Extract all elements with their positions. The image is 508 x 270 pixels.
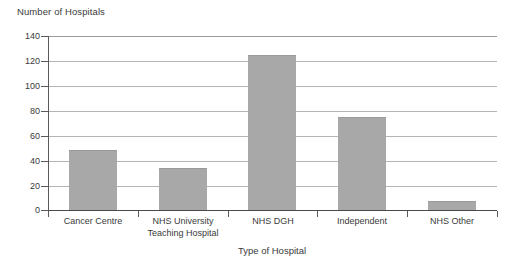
x-axis-title: Type of Hospital — [0, 245, 508, 256]
x-tick-label-cancer-centre: Cancer Centre — [48, 216, 138, 228]
y-axis-tick — [41, 61, 48, 62]
y-tick-label: 0 — [14, 206, 40, 215]
bar-slot — [138, 36, 228, 210]
bar-series — [48, 36, 497, 210]
x-tick-label-nhs-other: NHS Other — [407, 216, 497, 228]
bar-independent — [338, 117, 386, 210]
y-axis-tick — [41, 210, 48, 211]
y-tick-label: 140 — [14, 32, 40, 41]
y-axis-tick — [41, 136, 48, 137]
x-tick-label-independent: Independent — [317, 216, 407, 228]
y-axis-tick — [41, 36, 48, 37]
y-axis-tick-labels: 140 120 100 80 60 40 20 0 — [8, 0, 40, 270]
x-tick-label-line: NHS University — [138, 216, 228, 228]
bar-nhs-university-teaching-hospital — [159, 168, 207, 210]
x-axis-title-text: Type of Hospital — [238, 245, 306, 256]
bar-slot — [48, 36, 138, 210]
x-tick-label-line: NHS Other — [407, 216, 497, 228]
bar-cancer-centre — [69, 150, 117, 210]
bar-nhs-dgh — [248, 55, 296, 210]
x-tick-label-line: Cancer Centre — [48, 216, 138, 228]
x-tick-label-nhs-dgh: NHS DGH — [228, 216, 318, 228]
bar-slot — [317, 36, 407, 210]
x-tick-label-line: NHS DGH — [228, 216, 318, 228]
y-axis-tick — [41, 86, 48, 87]
y-axis-tick — [41, 161, 48, 162]
y-tick-label: 60 — [14, 132, 40, 141]
bar-slot — [407, 36, 497, 210]
y-tick-label: 40 — [14, 157, 40, 166]
x-tick-label-line: Teaching Hospital — [138, 228, 228, 240]
y-tick-label: 100 — [14, 82, 40, 91]
x-axis-line — [48, 210, 497, 211]
y-tick-label: 20 — [14, 182, 40, 191]
y-tick-label: 80 — [14, 107, 40, 116]
y-tick-label: 120 — [14, 57, 40, 66]
x-axis-tick — [497, 211, 498, 217]
y-axis-tick — [41, 186, 48, 187]
x-tick-label-line: Independent — [317, 216, 407, 228]
bar-nhs-other — [428, 201, 476, 210]
bar-slot — [228, 36, 318, 210]
x-tick-label-nhs-university-teaching-hospital: NHS University Teaching Hospital — [138, 216, 228, 239]
y-axis-tick — [41, 111, 48, 112]
bar-chart: Number of Hospitals 140 120 100 80 60 40… — [0, 0, 508, 270]
y-axis-line — [48, 36, 49, 211]
